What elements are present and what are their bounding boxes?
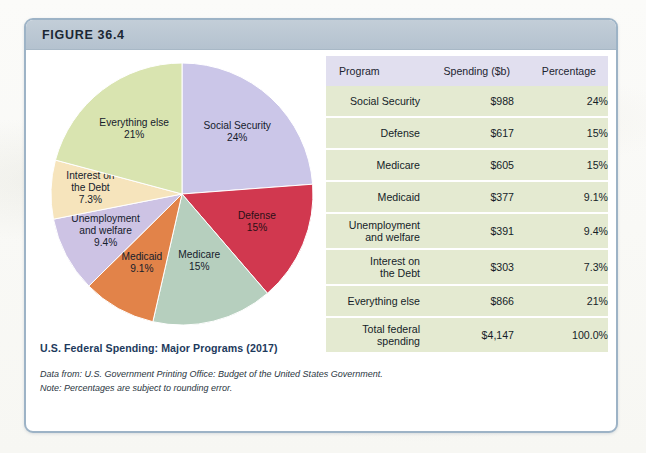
cell-program: Medicaid: [326, 181, 420, 213]
note-rounding-text: Note: Percentages are subject to roundin…: [40, 383, 232, 393]
cell-program-line2: the Debt: [326, 267, 420, 280]
figure-body: Social Security24%Defense15%Medicare15%M…: [26, 50, 616, 432]
pie-slice-label-line: and welfare: [79, 225, 132, 236]
figure-caption: U.S. Federal Spending: Major Programs (2…: [40, 342, 278, 354]
cell-program: Defense: [326, 117, 420, 149]
cell-percentage: 7.3%: [514, 249, 608, 285]
cell-program: Unemploymentand welfare: [326, 213, 420, 249]
pie-slice-label-line: Everything else: [99, 117, 169, 128]
cell-program-line1: Total federal: [326, 323, 420, 336]
cell-program: Total federalspending: [326, 317, 420, 352]
cell-percentage: 21%: [514, 285, 608, 317]
cell-program: Interest onthe Debt: [326, 249, 420, 285]
column-header-spending: Spending ($b): [420, 56, 514, 86]
cell-spending: $303: [420, 249, 514, 285]
pie-slice-label-line: 15%: [247, 222, 267, 233]
pie-slice-label-line: Medicaid: [122, 251, 163, 262]
cell-spending: $617: [420, 117, 514, 149]
cell-percentage: 24%: [514, 86, 608, 117]
table-row: Interest onthe Debt$3037.3%: [326, 249, 608, 285]
pie-slice-label-line: Medicare: [178, 249, 220, 260]
table-row: Total federalspending$4,147100.0%: [326, 317, 608, 352]
cell-percentage: 15%: [514, 117, 608, 149]
pie-chart: Social Security24%Defense15%Medicare15%M…: [36, 54, 328, 326]
cell-spending: $988: [420, 86, 514, 117]
pie-chart-svg: Social Security24%Defense15%Medicare15%M…: [36, 54, 328, 326]
table-header-row: Program Spending ($b) Percentage: [326, 56, 608, 86]
figure-notes: Data from: U.S. Government Printing Offi…: [40, 368, 383, 395]
column-header-program: Program: [326, 56, 420, 86]
cell-program-line1: Interest on: [326, 255, 420, 268]
figure-header-band: FIGURE 36.4: [26, 20, 616, 50]
cell-percentage: 9.1%: [514, 181, 608, 213]
cell-spending: $4,147: [420, 317, 514, 352]
pie-slice-label-line: the Debt: [71, 182, 110, 193]
pie-slice-label-line: Defense: [238, 210, 276, 221]
pie-slice-label-line: 15%: [189, 261, 209, 272]
cell-spending: $605: [420, 149, 514, 181]
pie-slice-label-line: Unemployment: [71, 213, 140, 224]
cell-percentage: 9.4%: [514, 213, 608, 249]
cell-program: Everything else: [326, 285, 420, 317]
note-data-source: Data from: U.S. Government Printing Offi…: [40, 368, 383, 382]
note-data-source-text: Data from: U.S. Government Printing Offi…: [40, 369, 383, 379]
cell-spending: $866: [420, 285, 514, 317]
spending-table: Program Spending ($b) Percentage Social …: [326, 56, 608, 352]
table-row: Social Security$98824%: [326, 86, 608, 117]
table-row: Medicare$60515%: [326, 149, 608, 181]
pie-slice-label-line: 21%: [124, 129, 144, 140]
note-rounding: Note: Percentages are subject to roundin…: [40, 382, 383, 396]
table-body: Social Security$98824%Defense$61715%Medi…: [326, 86, 608, 352]
column-header-percentage: Percentage: [514, 56, 608, 86]
pie-slice-label-line: 9.1%: [130, 263, 153, 274]
cell-percentage: 15%: [514, 149, 608, 181]
table-row: Everything else$86621%: [326, 285, 608, 317]
pie-slice-label-line: Social Security: [204, 120, 272, 131]
cell-program-line1: Unemployment: [326, 219, 420, 232]
cell-program: Medicare: [326, 149, 420, 181]
table-row: Medicaid$3779.1%: [326, 181, 608, 213]
cell-spending: $391: [420, 213, 514, 249]
pie-slice-label-line: 9.4%: [94, 237, 117, 248]
figure-container: FIGURE 36.4 Social Security24%Defense15%…: [24, 18, 618, 433]
cell-program: Social Security: [326, 86, 420, 117]
table-row: Defense$61715%: [326, 117, 608, 149]
cell-spending: $377: [420, 181, 514, 213]
cell-percentage: 100.0%: [514, 317, 608, 352]
figure-number-label: FIGURE 36.4: [42, 28, 125, 42]
cell-program-line2: and welfare: [326, 231, 420, 244]
pie-slice-label-line: 24%: [227, 132, 247, 143]
table-row: Unemploymentand welfare$3919.4%: [326, 213, 608, 249]
cell-program-line2: spending: [326, 335, 420, 348]
pie-slice-label-line: 7.3%: [79, 194, 102, 205]
